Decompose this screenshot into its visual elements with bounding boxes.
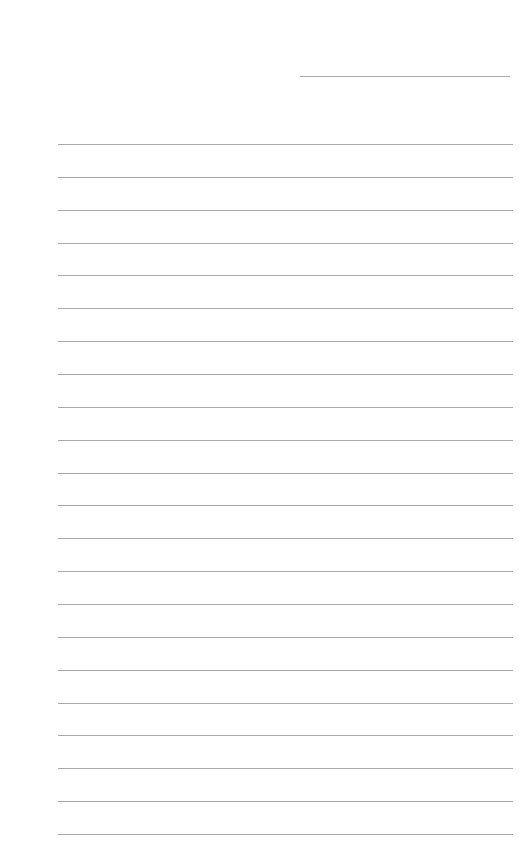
lined-paper-page: [0, 0, 521, 866]
ruled-line: [58, 637, 513, 638]
ruled-line: [58, 735, 513, 736]
ruled-line: [58, 801, 513, 802]
ruled-line: [58, 473, 513, 474]
header-name-line: [300, 76, 510, 77]
ruled-line: [58, 144, 513, 145]
ruled-line: [58, 177, 513, 178]
ruled-line: [58, 440, 513, 441]
ruled-line: [58, 308, 513, 309]
ruled-line: [58, 210, 513, 211]
ruled-line: [58, 505, 513, 506]
ruled-line: [58, 341, 513, 342]
ruled-line: [58, 571, 513, 572]
ruled-line: [58, 703, 513, 704]
ruled-line: [58, 374, 513, 375]
ruled-line: [58, 407, 513, 408]
ruled-line: [58, 670, 513, 671]
ruled-line: [58, 275, 513, 276]
ruled-line: [58, 538, 513, 539]
ruled-line: [58, 604, 513, 605]
ruled-line: [58, 768, 513, 769]
ruled-line: [58, 834, 513, 835]
ruled-line: [58, 243, 513, 244]
